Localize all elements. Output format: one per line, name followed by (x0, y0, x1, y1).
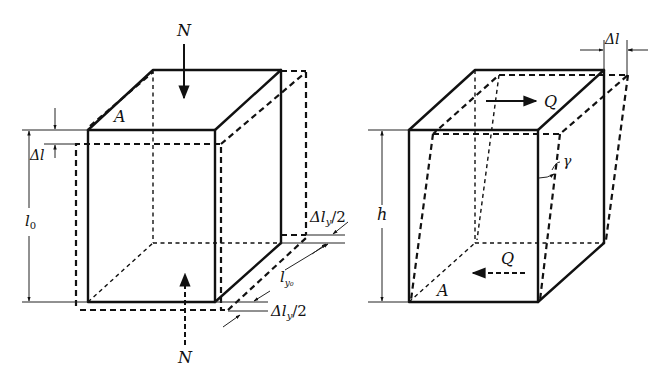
h-label: h (377, 205, 387, 224)
force-q-bottom: Q (473, 249, 525, 273)
deformed-cube (76, 71, 306, 310)
shear-delta-l-label: Δl (604, 31, 620, 47)
force-q-top: Q (486, 92, 557, 111)
force-q-bottom-label: Q (501, 249, 514, 268)
lateral-bottom-label: Δly/2 (270, 302, 307, 321)
l0-label: l0 (25, 212, 36, 231)
h-dimension: h (368, 130, 409, 302)
diagram-canvas: Δl l0 N N A (0, 0, 666, 366)
delta-l-label: Δl (29, 147, 45, 163)
area-label-right: A (435, 281, 449, 300)
ly0-label: ly₀ (280, 268, 294, 288)
shear-delta-l-dimension: Δl (580, 31, 648, 75)
area-label-left: A (112, 107, 126, 126)
sheared-cube (411, 75, 628, 300)
force-n-bottom-label: N (177, 348, 193, 366)
shear-panel: Δl h Q Q A γ (368, 31, 648, 302)
force-n-bottom: N (177, 274, 193, 366)
axial-panel: Δl l0 N N A (22, 21, 348, 366)
force-q-top-label: Q (544, 92, 557, 111)
force-n-top: N (176, 21, 192, 98)
delta-l-dimension: Δl (22, 108, 88, 163)
force-n-top-label: N (176, 21, 192, 40)
lateral-top-label: Δly/2 (309, 208, 346, 227)
gamma-label: γ (563, 153, 572, 169)
original-cube (88, 70, 281, 302)
